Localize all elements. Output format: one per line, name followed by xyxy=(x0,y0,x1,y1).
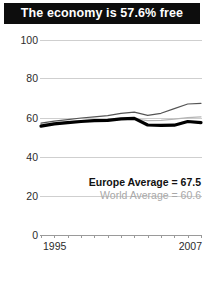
page-title: The economy is 57.6% free xyxy=(21,7,183,20)
chart-legend: Europe Average = 67.5 World Average = 60… xyxy=(89,176,201,201)
x-tick-label-start: 1995 xyxy=(43,241,66,252)
economic-freedom-chart-card: The economy is 57.6% free 100 80 60 40 2… xyxy=(0,0,204,286)
chart-title-bar: The economy is 57.6% free xyxy=(4,3,200,24)
legend-world-average: World Average = 60.6 xyxy=(89,189,201,201)
x-tick-label-end: 2007 xyxy=(179,241,202,252)
plot-area: 100 80 60 40 20 0 1995 2007 Europe Avera… xyxy=(0,26,204,286)
legend-europe-average: Europe Average = 67.5 xyxy=(89,176,201,188)
series-lines xyxy=(0,26,204,286)
